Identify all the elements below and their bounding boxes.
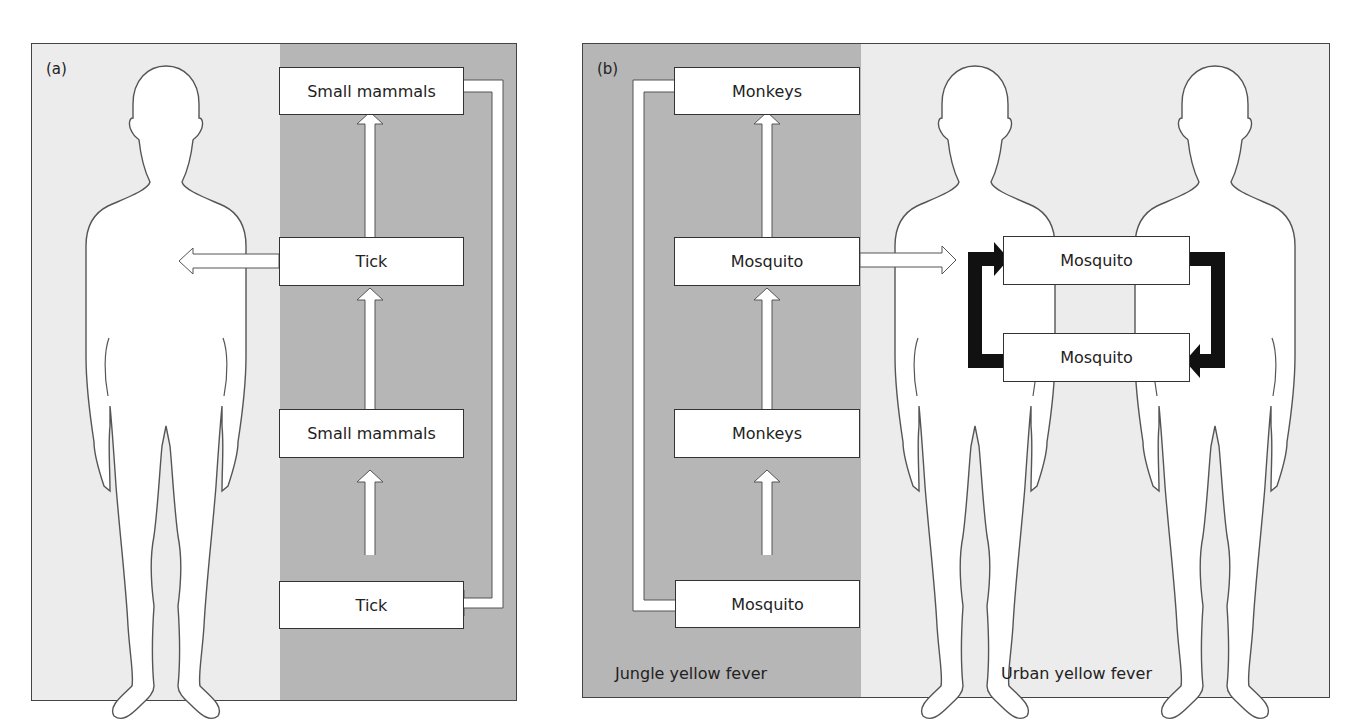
- node-mosquito-urban-bottom: Mosquito: [1003, 333, 1190, 382]
- node-mosquito-jungle-middle: Mosquito: [674, 237, 860, 286]
- node-label: Mosquito: [1060, 348, 1133, 367]
- node-label: Small mammals: [307, 82, 436, 101]
- node-label: Tick: [356, 252, 388, 271]
- node-mosquito-urban-top: Mosquito: [1003, 236, 1190, 285]
- arrow-up-icon: [357, 470, 383, 555]
- human-figure-b-left: [895, 66, 1055, 718]
- human-figure-b-right: [1135, 66, 1295, 718]
- node-small-mammals-top: Small mammals: [279, 67, 464, 115]
- node-mosquito-jungle-bottom: Mosquito: [675, 580, 860, 628]
- human-figure-a: [86, 66, 246, 718]
- node-small-mammals-lower: Small mammals: [279, 409, 464, 458]
- node-label: Tick: [356, 596, 388, 615]
- arrow-up-icon: [754, 470, 780, 555]
- arrow-up-icon: [357, 112, 383, 237]
- arrow-up-icon: [754, 288, 780, 412]
- node-label: Small mammals: [307, 424, 436, 443]
- node-label: Mosquito: [731, 252, 804, 271]
- node-monkeys-lower: Monkeys: [674, 409, 860, 458]
- node-monkeys-top: Monkeys: [674, 67, 860, 115]
- node-label: Mosquito: [731, 595, 804, 614]
- caption-jungle-yellow-fever: Jungle yellow fever: [615, 664, 767, 683]
- arrow-up-icon: [357, 288, 383, 412]
- return-arrow-icon: [452, 80, 503, 616]
- node-tick-bottom: Tick: [279, 581, 464, 629]
- node-label: Monkeys: [732, 82, 802, 101]
- arrow-up-icon: [754, 112, 780, 237]
- caption-urban-yellow-fever: Urban yellow fever: [1001, 664, 1152, 683]
- return-arrow-icon: [633, 80, 688, 620]
- node-label: Monkeys: [732, 424, 802, 443]
- node-label: Mosquito: [1060, 251, 1133, 270]
- node-tick-middle: Tick: [279, 237, 464, 286]
